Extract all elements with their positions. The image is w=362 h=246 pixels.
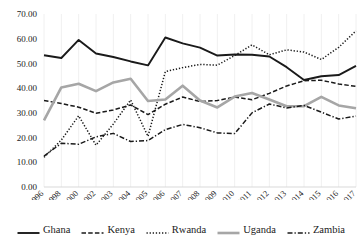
legend-label: Rwanda [172, 224, 206, 235]
x-tick-label: 2017 [338, 188, 357, 200]
legend-label: Ghana [43, 224, 70, 235]
x-tick-label: 2016 [321, 188, 340, 200]
y-tick-label: 20.00 [17, 133, 38, 143]
x-tick-label: 2009 [200, 188, 219, 200]
y-tick-label: 40.00 [17, 83, 38, 93]
x-tick-label: 2013 [269, 188, 288, 200]
dashed-black-line-icon [81, 224, 104, 234]
x-tick-label: 2007 [165, 188, 184, 200]
plot-area: 0.0010.0020.0030.0040.0050.0060.0070.00 … [0, 0, 362, 200]
x-tick-label: 2005 [130, 188, 149, 200]
x-axis-tick-labels: 1996199820002002200320042005200620072008… [26, 188, 357, 200]
x-tick-label: 1998 [44, 188, 63, 200]
x-tick-label: 2000 [61, 188, 80, 200]
solid-black-line-icon [17, 224, 40, 234]
dotted-black-line-icon [146, 224, 169, 234]
legend-item-kenya[interactable]: Kenya [81, 224, 134, 235]
legend-item-rwanda[interactable]: Rwanda [146, 224, 206, 235]
legend-label: Uganda [243, 224, 276, 235]
x-tick-label: 2004 [113, 188, 133, 200]
line-chart: 0.0010.0020.0030.0040.0050.0060.0070.00 … [0, 0, 362, 246]
x-tick-label: 2008 [182, 188, 201, 200]
x-tick-label: 2015 [304, 188, 323, 200]
x-tick-label: 2010 [217, 188, 236, 200]
x-tick-label: 2006 [148, 188, 167, 200]
chart-svg: 0.0010.0020.0030.0040.0050.0060.0070.00 … [0, 0, 362, 200]
legend-item-zambia[interactable]: Zambia [287, 224, 345, 235]
y-tick-label: 60.00 [17, 34, 38, 44]
legend-item-uganda[interactable]: Uganda [217, 224, 276, 235]
y-tick-label: 30.00 [17, 108, 38, 118]
x-tick-label: 2003 [96, 188, 115, 200]
legend-label: Kenya [107, 224, 134, 235]
y-tick-label: 70.00 [17, 9, 38, 19]
chart-legend: GhanaKenyaRwandaUgandaZambia [0, 216, 362, 242]
dashdot-black-line-icon [287, 224, 310, 234]
legend-item-ghana[interactable]: Ghana [17, 224, 70, 235]
x-tick-label: 2012 [252, 188, 271, 200]
solid-gray-line-icon [217, 224, 240, 234]
y-axis-tick-labels: 0.0010.0020.0030.0040.0050.0060.0070.00 [17, 9, 38, 192]
x-tick-label: 2002 [78, 188, 97, 200]
x-tick-label: 2014 [286, 188, 306, 200]
x-tick-label: 2011 [235, 188, 254, 200]
y-tick-label: 10.00 [17, 157, 38, 167]
legend-label: Zambia [313, 224, 345, 235]
y-tick-label: 50.00 [17, 59, 38, 69]
